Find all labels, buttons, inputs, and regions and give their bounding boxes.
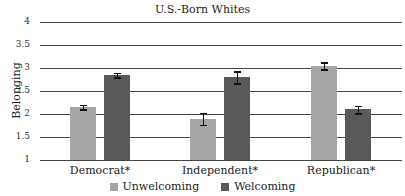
legend: UnwelcomingWelcoming — [0, 180, 405, 193]
legend-swatch — [110, 183, 118, 191]
bar-welcoming-0 — [104, 75, 130, 160]
legend-label: Unwelcoming — [123, 180, 200, 193]
y-tick-label: 1.5 — [8, 131, 30, 141]
error-cap — [80, 109, 87, 111]
gridline — [40, 91, 402, 92]
x-category-label: Democrat* — [40, 164, 160, 177]
gridline — [40, 160, 402, 161]
bar-welcoming-1 — [224, 77, 250, 160]
error-cap — [355, 106, 362, 108]
error-cap — [80, 105, 87, 107]
error-cap — [355, 113, 362, 115]
error-bar — [203, 113, 205, 125]
y-tick-label: 4 — [8, 16, 30, 26]
bar-unwelcoming-2 — [311, 66, 337, 160]
error-cap — [321, 69, 328, 71]
error-cap — [234, 83, 241, 85]
gridline — [40, 68, 402, 69]
x-category-label: Republican* — [281, 164, 401, 177]
error-cap — [114, 73, 121, 75]
gridline — [40, 22, 402, 23]
y-tick-label: 3 — [8, 62, 30, 72]
gridline — [40, 45, 402, 46]
plot-area: 11.522.533.54Democrat*Independent*Republ… — [0, 0, 405, 196]
legend-item-unwelcoming: Unwelcoming — [110, 180, 200, 193]
legend-swatch — [221, 183, 229, 191]
y-tick-label: 2.5 — [8, 85, 30, 95]
error-cap — [114, 77, 121, 79]
legend-label: Welcoming — [234, 180, 295, 193]
legend-item-welcoming: Welcoming — [221, 180, 295, 193]
x-category-label: Independent* — [160, 164, 280, 177]
y-tick-label: 3.5 — [8, 39, 30, 49]
y-tick-label: 1 — [8, 154, 30, 164]
error-cap — [200, 125, 207, 127]
bar-welcoming-2 — [345, 109, 371, 160]
error-bar — [237, 71, 239, 83]
error-cap — [200, 113, 207, 115]
error-cap — [234, 71, 241, 73]
error-cap — [321, 62, 328, 64]
bar-unwelcoming-0 — [70, 107, 96, 160]
y-tick-label: 2 — [8, 108, 30, 118]
